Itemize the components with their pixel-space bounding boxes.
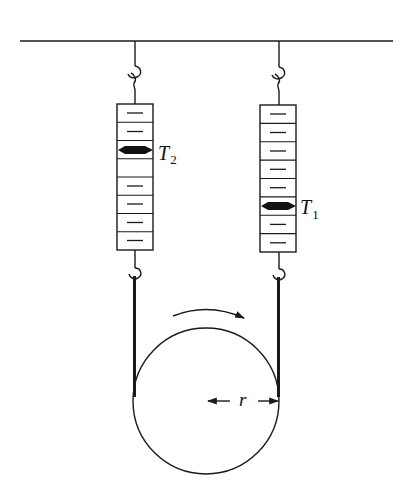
clockwise-rotation-arrow-icon <box>173 309 244 318</box>
right-spring-scale: T1 <box>260 41 319 397</box>
left-spring-scale: T2 <box>117 41 177 397</box>
radius-dimension: r <box>208 389 278 410</box>
pulley-wheel <box>133 328 279 474</box>
radius-label: r <box>239 389 247 410</box>
tension-label-t2: T2 <box>158 142 177 167</box>
tension-label-t1: T1 <box>300 196 319 222</box>
pulley-diagram: T2 T1 <box>0 0 416 498</box>
diagram-canvas: T2 T1 <box>0 0 416 498</box>
